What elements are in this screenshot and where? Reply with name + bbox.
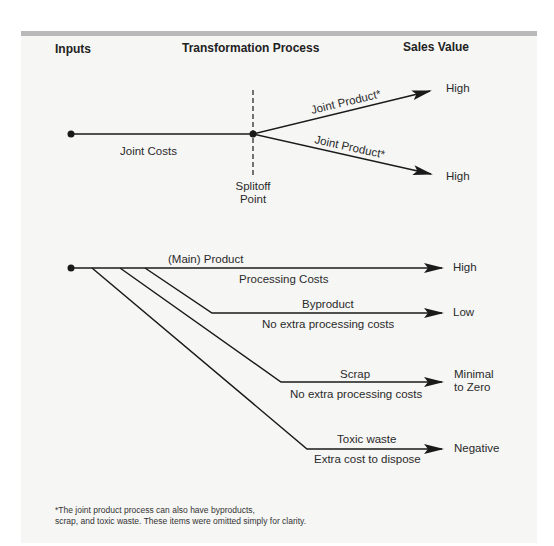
sales-value-joint-upper: High	[446, 82, 470, 94]
scrap-label: Scrap	[340, 368, 370, 380]
splitoff-label-2: Point	[240, 193, 267, 205]
sales-value-main: High	[453, 261, 477, 273]
product-input-dot	[68, 265, 75, 272]
processing-costs-label: Processing Costs	[239, 273, 329, 285]
toxic-waste-label: Toxic waste	[337, 433, 396, 445]
joint-costs-label: Joint Costs	[120, 145, 177, 157]
sales-value-byproduct: Low	[453, 306, 475, 318]
sales-value-toxic: Negative	[454, 442, 499, 454]
product-section: (Main) Product Processing Costs High Byp…	[68, 253, 500, 465]
header-sales-value: Sales Value	[403, 40, 469, 54]
joint-product-diagram: Inputs Transformation Process Sales Valu…	[0, 0, 554, 546]
sales-value-joint-lower: High	[446, 170, 470, 182]
scrap-cost-label: No extra processing costs	[290, 388, 423, 400]
header-inputs: Inputs	[55, 42, 91, 56]
sales-value-scrap-2: to Zero	[454, 381, 490, 393]
header-transformation-process: Transformation Process	[182, 41, 320, 55]
joint-cost-section: Joint Costs Splitoff Point Joint Product…	[68, 82, 470, 205]
footnote-line-2: scrap, and toxic waste. These items were…	[55, 516, 306, 526]
main-product-label: (Main) Product	[168, 253, 244, 265]
sales-value-scrap-1: Minimal	[454, 368, 494, 380]
footnote-line-1: *The joint product process can also have…	[55, 505, 255, 515]
byproduct-cost-label: No extra processing costs	[262, 318, 395, 330]
toxic-waste-arrow	[92, 268, 442, 449]
splitoff-label-1: Splitoff	[236, 180, 272, 192]
input-dot	[68, 131, 75, 138]
byproduct-label: Byproduct	[302, 298, 355, 310]
toxic-waste-cost-label: Extra cost to dispose	[314, 453, 421, 465]
